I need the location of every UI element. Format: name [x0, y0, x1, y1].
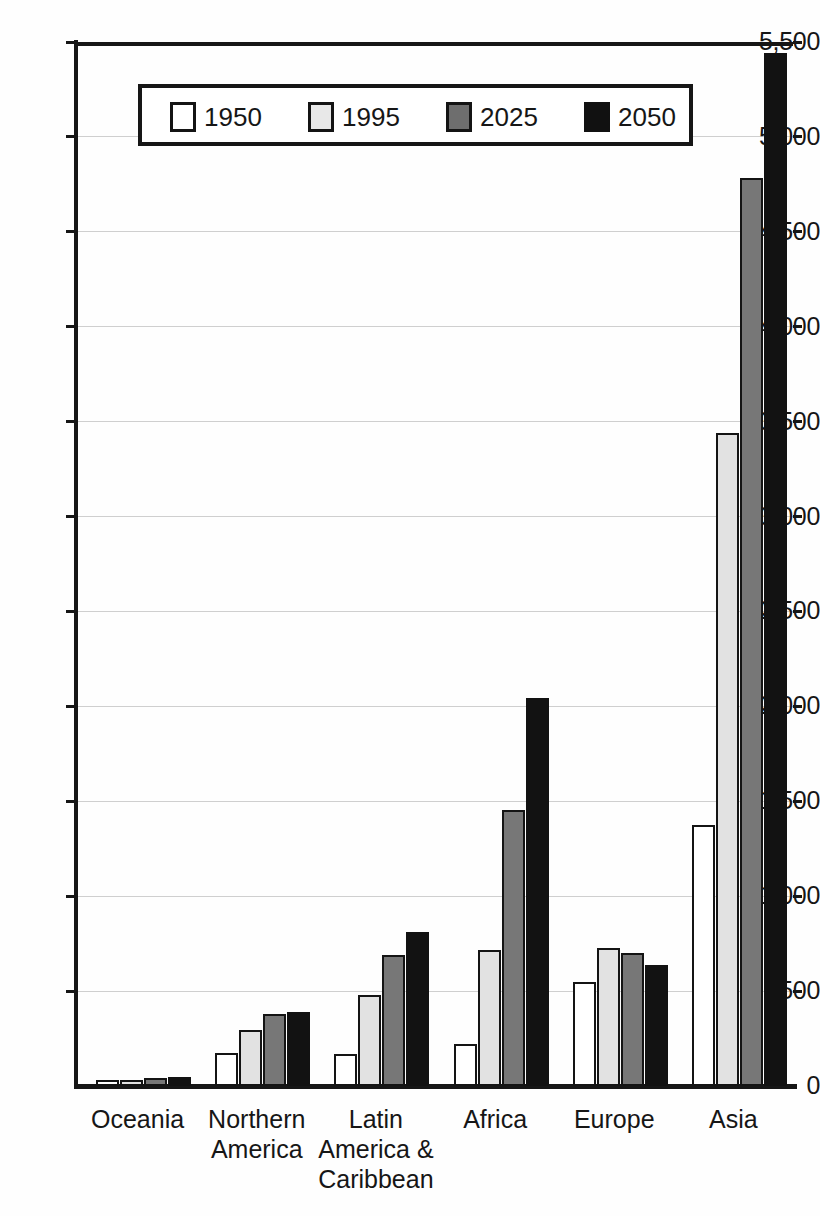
legend-swatch-icon [308, 102, 334, 132]
y-axis-tick-mark-right [793, 325, 802, 328]
y-axis-tick-mark [66, 610, 76, 613]
bar-2025 [382, 955, 405, 1086]
bar-2025 [263, 1014, 286, 1086]
bar-1950 [334, 1054, 357, 1086]
y-axis-tick-mark-right [793, 135, 802, 138]
bar-group [197, 42, 316, 1086]
legend-item-2050[interactable]: 2050 [584, 100, 676, 134]
legend-item-2025[interactable]: 2025 [446, 100, 538, 134]
bars-layer [78, 42, 793, 1086]
y-axis-tick-mark [66, 230, 76, 233]
bar-2050 [168, 1077, 191, 1086]
bar-1950 [215, 1053, 238, 1086]
legend-label: 1950 [204, 102, 262, 132]
bar-2025 [502, 810, 525, 1086]
y-axis-tick-mark-right [793, 705, 802, 708]
y-axis-tick-mark [66, 990, 76, 993]
legend-label: 2025 [480, 102, 538, 132]
bar-1995 [120, 1080, 143, 1086]
bar-1950 [454, 1044, 477, 1086]
bar-1995 [358, 995, 381, 1086]
y-axis-tick-mark-right [793, 610, 802, 613]
bar-group [555, 42, 674, 1086]
y-axis-tick-mark [66, 705, 76, 708]
y-axis-tick-mark-right [793, 41, 802, 44]
y-axis-tick-mark-right [793, 895, 802, 898]
bar-2025 [144, 1078, 167, 1086]
bar-1950 [692, 825, 715, 1086]
bar-1995 [716, 433, 739, 1086]
bar-2050 [645, 965, 668, 1086]
bar-1995 [478, 950, 501, 1086]
y-axis-tick-mark [66, 420, 76, 423]
bar-1995 [597, 948, 620, 1086]
bar-group [316, 42, 435, 1086]
y-axis-tick-mark [66, 895, 76, 898]
y-axis-tick-mark [66, 325, 76, 328]
y-axis-tick-mark [66, 41, 76, 44]
y-axis-tick-mark-right [793, 800, 802, 803]
bar-group [436, 42, 555, 1086]
bar-group [674, 42, 793, 1086]
y-axis-tick-mark [66, 515, 76, 518]
legend-swatch-icon [170, 102, 196, 132]
legend-swatch-icon [584, 102, 610, 132]
x-axis-category-label: Asia [664, 1104, 803, 1134]
chart-legend: 1950199520252050 [138, 84, 693, 146]
bar-1995 [239, 1030, 262, 1086]
y-axis-tick-mark-right [793, 230, 802, 233]
bar-2050 [287, 1012, 310, 1086]
bar-2025 [740, 178, 763, 1086]
bar-2025 [621, 953, 644, 1086]
bar-2050 [526, 698, 549, 1086]
bar-2050 [764, 53, 787, 1086]
bar-1950 [573, 982, 596, 1086]
bar-group [78, 42, 197, 1086]
legend-item-1995[interactable]: 1995 [308, 100, 400, 134]
legend-label: 2050 [618, 102, 676, 132]
legend-label: 1995 [342, 102, 400, 132]
bar-chart-figure: 5,5005,0004,5004,0003,5003,0002,5002,000… [0, 0, 820, 1216]
y-axis-tick-mark-right [793, 990, 802, 993]
y-axis-tick-mark-right [793, 420, 802, 423]
legend-item-1950[interactable]: 1950 [170, 100, 262, 134]
y-axis-tick-mark [66, 135, 76, 138]
legend-swatch-icon [446, 102, 472, 132]
bar-2050 [406, 932, 429, 1086]
bar-1950 [96, 1080, 119, 1086]
y-axis-tick-mark-right [793, 515, 802, 518]
y-axis-tick-mark [66, 800, 76, 803]
